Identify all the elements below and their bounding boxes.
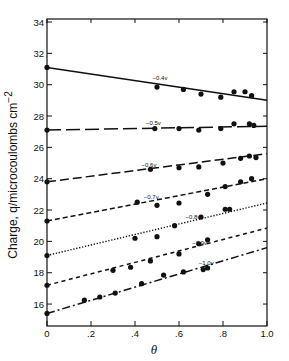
fit-line: [47, 248, 267, 314]
data-point: [97, 294, 102, 299]
fit-line: [47, 67, 267, 100]
x-tick-label: .8: [219, 328, 227, 339]
data-point: [181, 269, 186, 274]
x-tick-label: .4: [131, 328, 139, 339]
series-label: −0.4v: [153, 75, 168, 81]
data-point: [44, 253, 49, 258]
data-point: [132, 236, 137, 241]
series-label: −0.8v: [186, 214, 201, 220]
y-tick-label: 32: [33, 48, 44, 59]
y-tick-label: 30: [33, 79, 44, 90]
y-tick-label: 28: [33, 111, 44, 122]
data-point: [205, 192, 210, 197]
svg-text:Charge, q/microcoulombs cm−2: Charge, q/microcoulombs cm−2: [3, 91, 20, 259]
data-point: [198, 91, 203, 96]
data-point: [205, 265, 210, 270]
x-tick-label: 0: [44, 328, 49, 339]
x-tick-label: .6: [175, 328, 183, 339]
y-tick-label: 26: [33, 142, 44, 153]
data-point: [176, 200, 181, 205]
fit-line: [47, 154, 267, 182]
data-point: [176, 126, 181, 131]
data-point: [154, 203, 159, 208]
data-point: [249, 176, 254, 181]
data-point: [223, 184, 228, 189]
data-point: [196, 164, 201, 169]
data-point: [218, 126, 223, 131]
data-point: [253, 155, 258, 160]
data-point: [44, 128, 49, 133]
x-axis-label: θ: [151, 342, 158, 357]
data-point: [44, 179, 49, 184]
y-tick-label: 16: [33, 299, 44, 310]
series-label: −0.9v: [192, 240, 207, 246]
fit-line: [47, 203, 267, 255]
data-point: [172, 223, 177, 228]
data-point: [82, 298, 87, 303]
data-point: [231, 89, 236, 94]
data-point: [128, 265, 133, 270]
y-tick-label: 34: [33, 17, 44, 28]
data-point: [135, 200, 140, 205]
data-point: [176, 165, 181, 170]
data-point: [238, 156, 243, 161]
series-1: −0.4v: [44, 65, 267, 101]
data-point: [231, 121, 236, 126]
series-label: −1.0v: [199, 260, 214, 266]
data-point: [44, 311, 49, 316]
y-tick-label: 22: [33, 205, 44, 216]
data-point: [251, 123, 256, 128]
x-tick-label: 1.0: [260, 328, 273, 339]
data-point: [181, 87, 186, 92]
y-axis-label: Charge, q/microcoulombs cm−2: [3, 91, 20, 259]
series-2: −0.5v: [44, 120, 267, 132]
series-7: −1.0v: [44, 248, 267, 316]
x-tick-label: .2: [87, 328, 95, 339]
data-point: [227, 207, 232, 212]
data-point: [242, 89, 247, 94]
data-point: [154, 84, 159, 89]
y-tick-label: 24: [33, 173, 44, 184]
data-point: [249, 93, 254, 98]
data-point: [44, 218, 49, 223]
data-point: [44, 65, 49, 70]
y-tick-label: 20: [33, 236, 44, 247]
y-tick-label: 18: [33, 267, 44, 278]
data-point: [247, 153, 252, 158]
data-point: [110, 268, 115, 273]
series-label: −0.5v: [146, 120, 161, 126]
data-point: [218, 95, 223, 100]
data-point: [176, 251, 181, 256]
series-label: −0.6v: [142, 162, 157, 168]
data-point: [148, 258, 153, 263]
data-point: [139, 281, 144, 286]
charge-vs-coverage-chart: Charge, q/microcoulombs cm−2 θ 161820222…: [0, 0, 289, 361]
series-3: −0.6v: [44, 153, 267, 184]
data-point: [238, 179, 243, 184]
plot-area: 161820222426283032340.2.4.6.81.0−0.4v−0.…: [33, 17, 273, 340]
series-5: −0.8v: [44, 203, 267, 258]
data-point: [154, 234, 159, 239]
data-point: [44, 283, 49, 288]
data-point: [113, 290, 118, 295]
data-point: [152, 126, 157, 131]
series-label: −0.7v: [144, 194, 159, 200]
data-point: [196, 128, 201, 133]
data-point: [220, 160, 225, 165]
series-4: −0.7v: [44, 176, 267, 224]
data-point: [161, 272, 166, 277]
